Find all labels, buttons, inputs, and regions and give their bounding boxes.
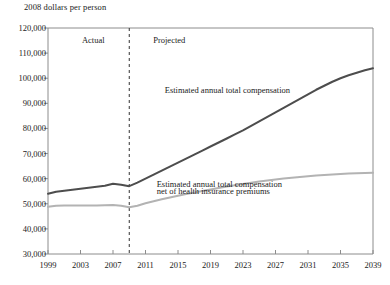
y-tick-label: 80,000 — [2, 123, 46, 133]
y-tick-label: 120,000 — [2, 23, 46, 33]
y-tick-label: 100,000 — [2, 73, 46, 83]
x-tick-label: 2019 — [202, 260, 219, 270]
net-compensation-label-line2: net of health insurance premiums — [157, 186, 270, 197]
total-compensation-label: Estimated annual total compensation — [165, 85, 290, 96]
y-tick-label: 110,000 — [2, 48, 46, 58]
x-tick-label: 2003 — [72, 260, 89, 270]
chart-container: 2008 dollars per person 120,000110,00010… — [0, 0, 390, 285]
projected-period-label: Projected — [153, 35, 185, 45]
actual-period-label: Actual — [82, 35, 105, 45]
y-tick-label: 40,000 — [2, 224, 46, 234]
x-tick-label: 2011 — [137, 260, 154, 270]
y-axis-tick-labels: 120,000110,000100,00090,00080,00070,0006… — [0, 0, 46, 285]
y-tick-label: 60,000 — [2, 174, 46, 184]
x-tick-label: 2035 — [332, 260, 349, 270]
plot-area — [0, 0, 390, 285]
x-tick-label: 2023 — [235, 260, 252, 270]
y-tick-label: 90,000 — [2, 98, 46, 108]
x-tick-label: 1999 — [40, 260, 57, 270]
x-tick-label: 2007 — [105, 260, 122, 270]
x-tick-label: 2039 — [365, 260, 382, 270]
x-tick-label: 2027 — [267, 260, 284, 270]
y-tick-label: 70,000 — [2, 149, 46, 159]
y-tick-label: 50,000 — [2, 199, 46, 209]
y-tick-label: 30,000 — [2, 249, 46, 259]
x-tick-label: 2015 — [170, 260, 187, 270]
x-tick-label: 2031 — [300, 260, 317, 270]
